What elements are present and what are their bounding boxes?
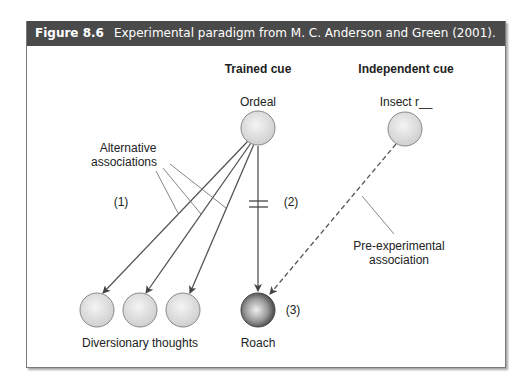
alternative-label-line1: Alternative: [100, 141, 157, 155]
diversionary-node-3: [166, 293, 200, 327]
alternative-label-line2: associations: [91, 155, 157, 169]
trained-cue-heading: Trained cue: [225, 62, 292, 76]
ordeal-label: Ordeal: [240, 95, 276, 109]
ordeal-node: [241, 111, 275, 145]
pre-experimental-label-line2: association: [369, 253, 429, 267]
insect-label: Insect r__: [380, 95, 433, 109]
diversionary-node-1: [80, 293, 114, 327]
diversionary-node-2: [123, 293, 157, 327]
insect-node: [388, 112, 422, 146]
pre-experimental-arrow: [270, 144, 396, 294]
diversionary-label: Diversionary thoughts: [82, 336, 198, 350]
roach-node: [241, 293, 275, 327]
pre-experimental-label-line1: Pre-experimental: [353, 239, 444, 253]
diagram-canvas: Trained cue Independent cue Ordeal Insec…: [0, 0, 532, 390]
independent-cue-heading: Independent cue: [358, 62, 454, 76]
label-3: (3): [286, 303, 301, 317]
roach-label: Roach: [241, 336, 276, 350]
label-2: (2): [284, 195, 299, 209]
label-1: (1): [114, 195, 129, 209]
annotation-pointers: [156, 164, 394, 234]
